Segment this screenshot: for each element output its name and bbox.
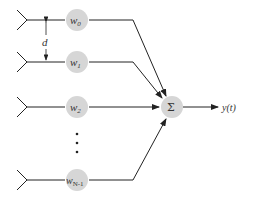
output-label: y(t)	[221, 102, 237, 114]
antenna-1	[17, 52, 162, 98]
antenna-0	[17, 10, 166, 96]
beamformer-diagram: d w0 w1 w2 wN-1 Σ y(t)	[0, 0, 256, 198]
summation-node: Σ	[161, 96, 183, 118]
weight-node-2: w2	[66, 96, 88, 118]
sigma-icon: Σ	[167, 101, 175, 114]
weight-node-n-1: wN-1	[66, 169, 88, 191]
antenna-n-1	[17, 119, 166, 190]
weight-node-0: w0	[66, 9, 88, 31]
spacing-label: d	[42, 36, 48, 48]
ellipsis-dots	[76, 133, 79, 154]
weight-node-1: w1	[66, 51, 88, 73]
